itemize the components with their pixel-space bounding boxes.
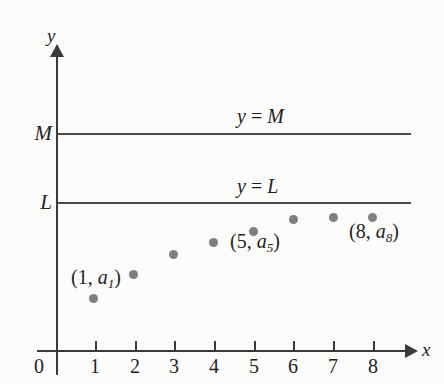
point-annotation-8-open: (8,	[349, 220, 376, 242]
reference-line-l	[57, 202, 411, 204]
x-axis-tick-label-2: 2	[122, 353, 148, 379]
point-annotation-5-close: )	[273, 230, 280, 252]
x-axis-line	[37, 350, 409, 352]
point-annotation-1: (1, a1)	[71, 266, 121, 295]
point-annotation-5-open: (5,	[230, 230, 257, 252]
point-annotation-1-open: (1,	[71, 266, 98, 288]
annotation-l-equals: =	[246, 175, 267, 197]
point-annotation-1-close: )	[114, 266, 121, 288]
x-axis-tick-label-7: 7	[320, 353, 346, 379]
x-axis-label: x	[422, 340, 430, 360]
annotation-m-equals: =	[246, 105, 267, 127]
x-axis-tick-label-3: 3	[161, 353, 187, 379]
annotation-y-equals-m: y = M	[237, 105, 284, 127]
data-point-4	[209, 238, 218, 247]
annotation-m-rhs: M	[267, 105, 284, 127]
reference-line-m	[57, 133, 411, 135]
annotation-l-lhs: y	[237, 175, 246, 197]
annotation-m-lhs: y	[237, 105, 246, 127]
x-axis-arrow-icon	[405, 344, 418, 358]
origin-label: 0	[28, 353, 50, 379]
x-axis-tick-6	[293, 341, 295, 351]
annotation-l-rhs: L	[267, 175, 278, 197]
x-axis-tick-label-1: 1	[82, 353, 108, 379]
x-axis-tick-label-4: 4	[201, 353, 227, 379]
x-axis-tick-8	[373, 341, 375, 351]
data-point-6	[289, 215, 298, 224]
point-annotation-8: (8, a8)	[349, 220, 399, 249]
x-axis-tick-3	[174, 341, 176, 351]
data-point-2	[129, 270, 138, 279]
point-annotation-5: (5, a5)	[230, 230, 280, 259]
y-axis-label: y	[47, 26, 55, 46]
point-annotation-5-var: a	[257, 230, 267, 252]
x-axis-tick-2	[135, 341, 137, 351]
point-annotation-8-var: a	[376, 220, 386, 242]
y-value-label-l: L	[22, 191, 52, 213]
data-point-3	[169, 250, 178, 259]
y-axis-line	[56, 54, 58, 375]
data-point-1	[89, 294, 98, 303]
x-axis-tick-7	[333, 341, 335, 351]
x-axis-tick-label-5: 5	[241, 353, 267, 379]
x-axis-tick-4	[214, 341, 216, 351]
sequence-convergence-figure: y x M L 0 y = M y = L 12345678 (1, a1) (…	[0, 0, 444, 384]
x-axis-tick-label-6: 6	[280, 353, 306, 379]
point-annotation-1-var: a	[98, 266, 108, 288]
annotation-y-equals-l: y = L	[237, 175, 278, 197]
data-point-7	[329, 213, 338, 222]
point-annotation-8-close: )	[392, 220, 399, 242]
x-axis-tick-1	[95, 341, 97, 351]
x-axis-tick-5	[254, 341, 256, 351]
y-value-label-m: M	[22, 122, 52, 144]
x-axis-tick-label-8: 8	[360, 353, 386, 379]
